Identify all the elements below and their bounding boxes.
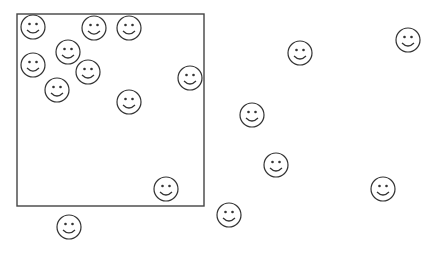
- smiley-face-icon: [76, 60, 100, 84]
- right-eye: [410, 36, 413, 39]
- face-outline: [117, 90, 141, 114]
- smiley-face-icon: [396, 28, 420, 52]
- face-outline: [217, 203, 241, 227]
- right-eye: [131, 98, 134, 101]
- smiley-face-icon: [21, 15, 45, 39]
- face-outline: [288, 41, 312, 65]
- smiley-face-icon: [56, 40, 80, 64]
- right-eye: [71, 223, 74, 226]
- right-eye: [59, 86, 62, 89]
- left-eye: [28, 23, 31, 26]
- left-eye: [83, 68, 86, 71]
- right-eye: [278, 161, 281, 164]
- face-outline: [21, 15, 45, 39]
- right-eye: [385, 185, 388, 188]
- right-eye: [70, 48, 73, 51]
- face-outline: [154, 177, 178, 201]
- left-eye: [63, 48, 66, 51]
- face-outline: [371, 177, 395, 201]
- right-eye: [192, 74, 195, 77]
- smiley-face-icon: [371, 177, 395, 201]
- right-eye: [90, 68, 93, 71]
- smiley-face-icon: [45, 78, 69, 102]
- smiley-face-icon: [57, 215, 81, 239]
- smiley-face-icon: [21, 53, 45, 77]
- face-outline: [21, 53, 45, 77]
- face-outline: [56, 40, 80, 64]
- face-outline: [117, 16, 141, 40]
- left-eye: [161, 185, 164, 188]
- right-eye: [168, 185, 171, 188]
- smiley-face-icon: [117, 16, 141, 40]
- smiley-face-icon: [288, 41, 312, 65]
- right-eye: [254, 111, 257, 114]
- left-eye: [185, 74, 188, 77]
- left-eye: [124, 24, 127, 27]
- right-eye: [231, 211, 234, 214]
- face-outline: [57, 215, 81, 239]
- smiley-face-icon: [178, 66, 202, 90]
- smiley-face-icon: [117, 90, 141, 114]
- left-eye: [224, 211, 227, 214]
- face-outline: [240, 103, 264, 127]
- face-outline: [178, 66, 202, 90]
- right-eye: [35, 23, 38, 26]
- right-eye: [302, 49, 305, 52]
- bounding-box: [17, 14, 204, 206]
- face-outline: [76, 60, 100, 84]
- right-eye: [131, 24, 134, 27]
- smiley-face-icon: [240, 103, 264, 127]
- left-eye: [378, 185, 381, 188]
- left-eye: [403, 36, 406, 39]
- left-eye: [124, 98, 127, 101]
- right-eye: [96, 24, 99, 27]
- smiley-face-icon: [217, 203, 241, 227]
- right-eye: [35, 61, 38, 64]
- face-outline: [396, 28, 420, 52]
- face-outline: [45, 78, 69, 102]
- smiley-face-icon: [82, 16, 106, 40]
- smiley-diagram: [0, 0, 436, 261]
- face-outline: [82, 16, 106, 40]
- smiley-face-icon: [264, 153, 288, 177]
- left-eye: [52, 86, 55, 89]
- left-eye: [271, 161, 274, 164]
- left-eye: [64, 223, 67, 226]
- smiley-face-icon: [154, 177, 178, 201]
- left-eye: [28, 61, 31, 64]
- left-eye: [295, 49, 298, 52]
- left-eye: [89, 24, 92, 27]
- face-outline: [264, 153, 288, 177]
- left-eye: [247, 111, 250, 114]
